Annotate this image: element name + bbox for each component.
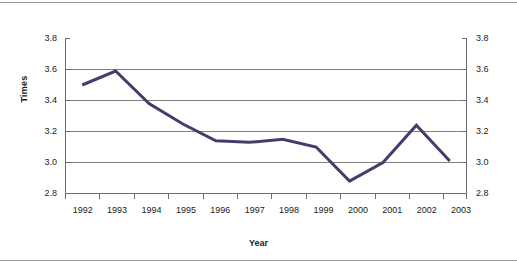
y-axis-tick-label-right-3.8: 3.8	[476, 33, 516, 43]
y-axis-tick-label-right-3.4: 3.4	[476, 95, 516, 105]
y-axis-tick-label-left-3.4: 3.4	[17, 95, 57, 105]
gridlines	[66, 70, 467, 163]
y-axis-tick-label-right-2.8: 2.8	[476, 188, 516, 198]
x-axis-title: Year	[0, 238, 517, 248]
y-axis-tick-label-right-3.6: 3.6	[476, 64, 516, 74]
line-chart-svg	[0, 0, 517, 266]
y-axis-tick-label-left-3.8: 3.8	[17, 33, 57, 43]
x-tick-marks	[66, 194, 467, 200]
y-axis-tick-label-left-2.8: 2.8	[17, 188, 57, 198]
y-axis-tick-label-left-3.0: 3.0	[17, 157, 57, 167]
plot-area: Times Year 3.8 3.6 3.4 3.2 3.0 2.8 3.8 3…	[0, 0, 517, 266]
y-axis-tick-label-left-3.2: 3.2	[17, 126, 57, 136]
y-tick-marks	[66, 70, 467, 163]
chart-figure: Times Year 3.8 3.6 3.4 3.2 3.0 2.8 3.8 3…	[0, 0, 517, 266]
x-axis-tick-label-2003: 2003	[441, 205, 481, 215]
y-axis-tick-label-right-3.2: 3.2	[476, 126, 516, 136]
data-series-line	[82, 71, 450, 181]
axis-spines	[66, 38, 467, 194]
y-axis-tick-label-right-3.0: 3.0	[476, 157, 516, 167]
y-axis-tick-label-left-3.6: 3.6	[17, 64, 57, 74]
